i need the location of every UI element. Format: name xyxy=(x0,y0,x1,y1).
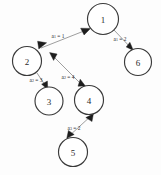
edge-5-4-label: a3 = 2 xyxy=(68,125,81,131)
graph-svg: a1 = 1 a1 = 2 a2 = 3 xyxy=(0,0,161,175)
edge-1-6-label: a1 = 2 xyxy=(114,36,127,42)
edge-4-2-arrowhead-to-4 xyxy=(78,79,85,86)
node-1-label: 1 xyxy=(101,15,106,25)
edge-4-2-label: a2 = 4 xyxy=(62,74,75,80)
edge-2-3-label-value: 3 xyxy=(40,77,43,83)
node-4-label: 4 xyxy=(87,96,92,106)
edge-4-2-line xyxy=(51,54,84,87)
edge-2-1-label-value: 1 xyxy=(62,33,65,39)
node-1[interactable]: 1 xyxy=(88,4,119,35)
edge-2-1-line xyxy=(41,29,89,48)
node-5-label: 5 xyxy=(71,148,76,158)
edge-2-3-label: a2 = 3 xyxy=(30,77,43,83)
node-3[interactable]: 3 xyxy=(35,87,63,115)
edge-2-1-label: a1 = 1 xyxy=(52,33,65,39)
edge-1-6: a1 = 2 xyxy=(114,30,134,50)
node-3-label: 3 xyxy=(47,97,52,107)
node-6[interactable]: 6 xyxy=(125,49,152,76)
edge-5-4-label-value: 2 xyxy=(78,125,81,131)
node-4[interactable]: 4 xyxy=(75,86,104,115)
edge-2-1: a1 = 1 xyxy=(38,28,91,49)
diagram-canvas: a1 = 1 a1 = 2 a2 = 3 xyxy=(0,0,161,175)
edges-layer: a1 = 1 a1 = 2 a2 = 3 xyxy=(30,28,134,138)
edge-1-6-label-value: 2 xyxy=(124,36,127,42)
edge-4-2-label-value: 4 xyxy=(72,74,75,80)
edge-5-4: a3 = 2 xyxy=(67,114,94,138)
node-2-label: 2 xyxy=(25,57,30,67)
node-2[interactable]: 2 xyxy=(13,47,42,76)
node-6-label: 6 xyxy=(136,58,141,68)
edge-4-2: a2 = 4 xyxy=(50,53,86,87)
node-5[interactable]: 5 xyxy=(59,138,88,167)
